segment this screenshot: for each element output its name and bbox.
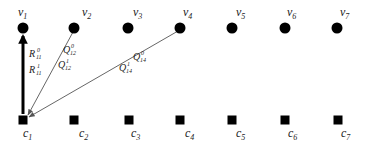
circle-node-icon bbox=[332, 23, 343, 34]
node-label-v7: v7 bbox=[340, 5, 350, 21]
square-node-icon bbox=[19, 116, 28, 125]
variable-node-v1: v1 bbox=[18, 5, 29, 34]
node-label-c3: c3 bbox=[131, 126, 140, 142]
square-node-icon bbox=[228, 116, 237, 125]
check-node-c3: c3 bbox=[125, 116, 141, 143]
edge-label-R11-1: R111 bbox=[28, 63, 42, 76]
label-subscript: 1 bbox=[28, 133, 32, 142]
variable-node-v4: v4 bbox=[175, 5, 193, 34]
edge-label-superscript: 1 bbox=[127, 61, 130, 67]
check-node-c4: c4 bbox=[176, 116, 195, 143]
square-node-icon bbox=[281, 116, 290, 125]
label-subscript: 3 bbox=[137, 12, 142, 21]
check-node-c5: c5 bbox=[228, 116, 246, 143]
edge-label-R11-0: R011 bbox=[28, 47, 42, 60]
variable-nodes: v1v2v3v4v5v6v7 bbox=[18, 5, 351, 34]
circle-node-icon bbox=[175, 23, 186, 34]
node-label-c5: c5 bbox=[236, 126, 245, 142]
label-subscript: 6 bbox=[293, 133, 297, 142]
square-node-icon bbox=[70, 116, 79, 125]
label-subscript: 5 bbox=[241, 12, 245, 21]
circle-node-icon bbox=[280, 23, 291, 34]
circle-node-icon bbox=[69, 23, 80, 34]
check-node-c1: c1 bbox=[19, 116, 33, 143]
node-label-v4: v4 bbox=[183, 5, 192, 21]
variable-node-v6: v6 bbox=[280, 5, 297, 34]
check-node-c6: c6 bbox=[281, 116, 298, 143]
edge-label-superscript: 1 bbox=[37, 63, 40, 69]
edge-label-Q12-0: Q012 bbox=[63, 43, 76, 56]
edge-label-base: R bbox=[28, 64, 35, 75]
edge-label-subscript: 14 bbox=[126, 68, 132, 74]
variable-node-v2: v2 bbox=[69, 5, 92, 34]
edge-label-subscript: 12 bbox=[70, 50, 76, 56]
node-label-c7: c7 bbox=[341, 126, 351, 142]
variable-node-v7: v7 bbox=[332, 5, 351, 34]
edge-label-subscript: 11 bbox=[36, 54, 42, 60]
check-node-c2: c2 bbox=[70, 116, 89, 143]
circle-node-icon bbox=[18, 23, 29, 34]
node-label-v3: v3 bbox=[133, 5, 142, 21]
variable-node-v3: v3 bbox=[123, 5, 143, 34]
circle-node-icon bbox=[123, 23, 134, 34]
edge-label-base: R bbox=[28, 48, 35, 59]
variable-node-v5: v5 bbox=[227, 5, 246, 34]
edge-label-subscript: 14 bbox=[140, 57, 146, 63]
node-label-c2: c2 bbox=[79, 126, 88, 142]
edges-layer bbox=[23, 31, 178, 117]
edge-label-superscript: 0 bbox=[71, 43, 74, 49]
edge-label-superscript: 0 bbox=[141, 50, 144, 56]
edge-label-subscript: 12 bbox=[65, 65, 71, 71]
edge-label-subscript: 11 bbox=[36, 70, 42, 76]
node-label-v2: v2 bbox=[82, 5, 91, 21]
label-subscript: 5 bbox=[241, 133, 245, 142]
label-subscript: 7 bbox=[345, 12, 350, 21]
label-subscript: 1 bbox=[23, 12, 27, 21]
node-label-v1: v1 bbox=[18, 5, 27, 21]
bipartite-graph-diagram: v1v2v3v4v5v6v7 c1c2c3c4c5c6c7 R011R111Q0… bbox=[0, 0, 366, 144]
edge-label-superscript: 0 bbox=[37, 47, 40, 53]
label-subscript: 6 bbox=[292, 12, 296, 21]
node-label-v6: v6 bbox=[287, 5, 296, 21]
node-label-c6: c6 bbox=[288, 126, 297, 142]
label-subscript: 3 bbox=[135, 133, 140, 142]
label-subscript: 2 bbox=[87, 12, 91, 21]
square-node-icon bbox=[176, 116, 185, 125]
label-subscript: 2 bbox=[84, 133, 88, 142]
square-node-icon bbox=[334, 116, 343, 125]
edge-label-Q14-0: Q014 bbox=[133, 50, 146, 63]
square-node-icon bbox=[125, 116, 134, 125]
node-label-c4: c4 bbox=[185, 126, 194, 142]
edge-label-superscript: 1 bbox=[66, 58, 69, 64]
node-label-v5: v5 bbox=[236, 5, 245, 21]
check-node-c7: c7 bbox=[334, 116, 352, 143]
label-subscript: 7 bbox=[346, 133, 351, 142]
node-label-c1: c1 bbox=[23, 126, 32, 142]
label-subscript: 4 bbox=[190, 133, 194, 142]
label-subscript: 4 bbox=[188, 12, 192, 21]
edge-label-Q14-1: Q114 bbox=[119, 61, 132, 74]
circle-node-icon bbox=[227, 23, 238, 34]
edge-v4-c1 bbox=[29, 31, 178, 117]
check-nodes: c1c2c3c4c5c6c7 bbox=[19, 116, 352, 143]
edge-label-Q12-1: Q112 bbox=[58, 58, 71, 71]
